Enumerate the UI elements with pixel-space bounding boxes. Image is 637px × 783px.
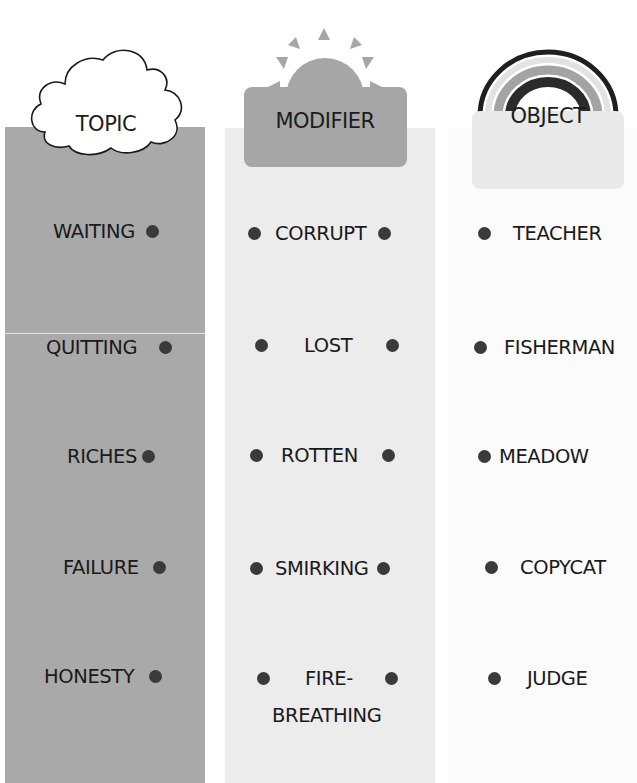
object-word: JUDGE bbox=[527, 667, 587, 690]
object-word: MEADOW bbox=[499, 445, 589, 468]
modifier-word: LOST bbox=[304, 334, 352, 357]
bullet-dot-icon bbox=[149, 670, 162, 683]
modifier-word: BREATHING bbox=[272, 704, 382, 727]
topic-item: WAITING bbox=[53, 220, 159, 243]
bullet-dot-icon bbox=[142, 450, 155, 463]
topic-word: HONESTY bbox=[44, 665, 134, 688]
bullet-dot-icon bbox=[248, 227, 261, 240]
topic-item: QUITTING bbox=[46, 336, 172, 359]
object-item: FISHERMAN bbox=[474, 336, 615, 359]
modifier-word: SMIRKING bbox=[275, 557, 369, 580]
bullet-dot-icon bbox=[378, 227, 391, 240]
bullet-dot-icon bbox=[159, 341, 172, 354]
bullet-dot-icon bbox=[153, 561, 166, 574]
cloud-icon bbox=[25, 48, 187, 156]
modifier-item: CORRUPT bbox=[248, 222, 391, 245]
topic-divider bbox=[5, 333, 205, 334]
topic-item: FAILURE bbox=[63, 556, 166, 579]
modifier-item: FIRE- bbox=[257, 667, 398, 690]
bullet-dot-icon bbox=[255, 339, 268, 352]
topic-item: RICHES bbox=[67, 445, 155, 468]
topic-header-label: TOPIC bbox=[25, 112, 187, 136]
bullet-dot-icon bbox=[474, 341, 487, 354]
object-word: TEACHER bbox=[513, 222, 602, 245]
topic-word: WAITING bbox=[53, 220, 135, 243]
modifier-item: LOST bbox=[255, 334, 399, 357]
modifier-item-continued: BREATHING bbox=[272, 704, 382, 727]
topic-item: HONESTY bbox=[44, 665, 162, 688]
object-item: TEACHER bbox=[478, 222, 602, 245]
bullet-dot-icon bbox=[377, 562, 390, 575]
topic-word: RICHES bbox=[67, 445, 137, 468]
bullet-dot-icon bbox=[250, 449, 263, 462]
modifier-header: MODIFIER bbox=[240, 25, 410, 155]
object-word: FISHERMAN bbox=[504, 336, 615, 359]
topic-word: QUITTING bbox=[46, 336, 137, 359]
bullet-dot-icon bbox=[478, 450, 491, 463]
bullet-dot-icon bbox=[485, 561, 498, 574]
bullet-dot-icon bbox=[385, 672, 398, 685]
object-word: COPYCAT bbox=[520, 556, 606, 579]
modifier-item: ROTTEN bbox=[250, 444, 395, 467]
modifier-item: SMIRKING bbox=[250, 557, 390, 580]
bullet-dot-icon bbox=[250, 562, 263, 575]
topic-word: FAILURE bbox=[63, 556, 139, 579]
bullet-dot-icon bbox=[478, 227, 491, 240]
object-item: MEADOW bbox=[478, 445, 589, 468]
modifier-word: CORRUPT bbox=[275, 222, 366, 245]
bullet-dot-icon bbox=[146, 225, 159, 238]
topic-header: TOPIC bbox=[25, 48, 187, 156]
object-item: JUDGE bbox=[488, 667, 587, 690]
object-item: COPYCAT bbox=[485, 556, 606, 579]
bullet-dot-icon bbox=[382, 449, 395, 462]
modifier-word: ROTTEN bbox=[281, 444, 358, 467]
modifier-word: FIRE- bbox=[305, 667, 353, 690]
bullet-dot-icon bbox=[257, 672, 270, 685]
bullet-dot-icon bbox=[488, 672, 501, 685]
object-header: OBJECT bbox=[468, 48, 628, 158]
object-header-label: OBJECT bbox=[468, 104, 628, 128]
modifier-header-label: MODIFIER bbox=[240, 109, 410, 133]
bullet-dot-icon bbox=[386, 339, 399, 352]
